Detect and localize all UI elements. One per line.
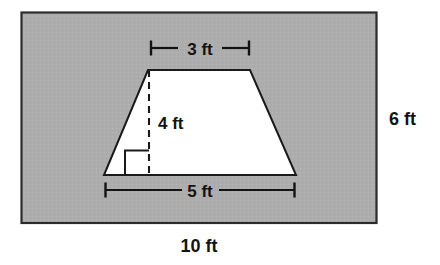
right-dimension-label: 6 ft <box>389 109 416 129</box>
height-dimension-label: 4 ft <box>158 114 184 133</box>
top-dimension-label: 3 ft <box>187 40 213 59</box>
base-dimension-label: 10 ft <box>180 236 217 256</box>
geometry-figure: 3 ft 5 ft 4 ft 6 ft 10 ft <box>0 0 440 265</box>
diagram-canvas: 3 ft 5 ft 4 ft 6 ft 10 ft <box>0 0 440 265</box>
bottom-dimension-label: 5 ft <box>187 182 213 201</box>
